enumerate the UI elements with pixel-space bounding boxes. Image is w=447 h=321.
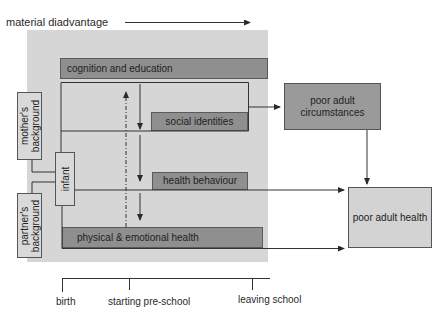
timeline-leaving-school: leaving school bbox=[238, 294, 301, 305]
connector-lines bbox=[0, 0, 447, 321]
timeline-starting-preschool: starting pre-school bbox=[108, 296, 190, 307]
physical-health-arrow bbox=[62, 206, 344, 249]
timeline-birth: birth bbox=[56, 296, 75, 307]
